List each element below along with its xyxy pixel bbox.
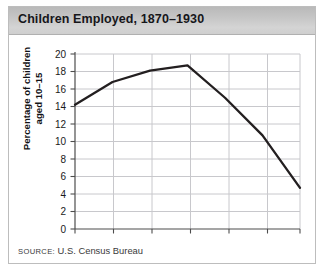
y-tick-label: 12	[55, 119, 67, 130]
y-tick-label: 20	[55, 49, 67, 60]
y-tick-label: 16	[55, 84, 67, 95]
y-tick-label: 18	[55, 66, 67, 77]
y-axis-ticks	[71, 54, 76, 229]
y-tick-label: 10	[55, 136, 67, 147]
y-tick-label: 14	[55, 101, 67, 112]
horizontal-gridlines	[75, 54, 300, 212]
y-tick-label: 0	[60, 224, 66, 235]
chart-figure: Children Employed, 1870–1930 Percentage …	[8, 6, 316, 264]
data-series-line	[75, 65, 300, 188]
line-chart: 0 2 4 6 8 10 12 14 16 18 20 1870 1880 18…	[9, 35, 317, 235]
source-note: SOURCE: U.S. Census Bureau	[18, 245, 143, 256]
page-title: Children Employed, 1870–1930	[18, 12, 204, 26]
y-axis-tick-labels: 0 2 4 6 8 10 12 14 16 18 20	[55, 49, 67, 235]
plot-region: Percentage of children aged 10–15	[9, 35, 315, 235]
y-tick-label: 6	[60, 171, 66, 182]
source-label: SOURCE:	[18, 247, 55, 256]
y-tick-label: 2	[60, 206, 66, 217]
chart-title-bar: Children Employed, 1870–1930	[9, 7, 315, 35]
x-axis-ticks	[75, 229, 300, 234]
y-tick-label: 4	[60, 189, 66, 200]
y-tick-label: 8	[60, 154, 66, 165]
source-value: U.S. Census Bureau	[58, 245, 143, 256]
